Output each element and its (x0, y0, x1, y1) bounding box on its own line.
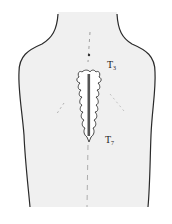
label-t3: T3 (107, 60, 116, 71)
incision-line (88, 74, 91, 136)
torso-diagram: T3 T7 (0, 0, 172, 224)
torso-svg (0, 0, 172, 224)
spinous-process-dot (88, 54, 90, 56)
label-t7: T7 (105, 135, 114, 146)
